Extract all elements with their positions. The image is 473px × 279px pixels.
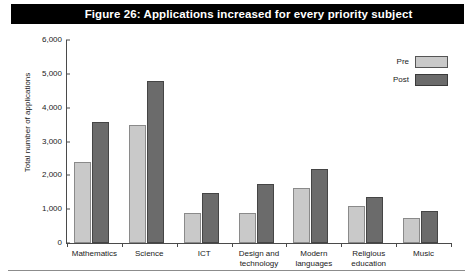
- y-axis-tick-mark: [66, 141, 70, 142]
- y-axis-tick-mark: [66, 40, 70, 41]
- figure-title-banner: Figure 26: Applications increased for ev…: [11, 4, 464, 24]
- y-axis-tick-mark: [66, 73, 70, 74]
- bar-pre: [403, 218, 420, 243]
- bar-pre: [74, 162, 91, 243]
- y-axis-tick-label: 1,000: [42, 205, 62, 213]
- x-axis-tick-mark: [122, 243, 123, 247]
- y-axis-tick-label: 3,000: [42, 138, 62, 146]
- y-axis-tick-mark: [66, 175, 70, 176]
- bar-post: [421, 211, 438, 243]
- x-axis-tick-mark: [341, 243, 342, 247]
- bar-post: [366, 197, 383, 243]
- figure-container: Figure 26: Applications increased for ev…: [0, 0, 473, 279]
- bar-post: [202, 193, 219, 243]
- x-axis-tick-mark: [451, 243, 452, 247]
- y-axis-tick-mark: [66, 209, 70, 210]
- bar-pre: [348, 206, 365, 243]
- bar-pre: [293, 188, 310, 243]
- legend-swatch-post: [415, 74, 448, 86]
- bar-post: [311, 169, 328, 243]
- x-axis-line: [66, 243, 451, 244]
- bar-pre: [239, 213, 256, 243]
- footer-divider: [8, 270, 465, 271]
- y-axis-tick-labels: 01,0002,0003,0004,0005,0006,000: [22, 28, 66, 248]
- x-axis-tick-mark: [177, 243, 178, 247]
- legend-item-pre: Pre: [374, 54, 448, 69]
- chart-legend: Pre Post: [374, 54, 448, 90]
- legend-label-post: Post: [393, 75, 409, 84]
- y-axis-tick-label: 6,000: [42, 36, 62, 44]
- legend-label-pre: Pre: [397, 57, 409, 66]
- y-axis-tick-label: 4,000: [42, 104, 62, 112]
- page-title: Figure 26: Applications increased for ev…: [85, 8, 413, 20]
- legend-item-post: Post: [374, 72, 448, 87]
- bar-post: [147, 81, 164, 243]
- y-axis-tick-label: 5,000: [42, 70, 62, 78]
- bar-post: [257, 184, 274, 243]
- bar-pre: [184, 213, 201, 243]
- plot-area: Total number of applications 01,0002,000…: [0, 28, 473, 279]
- bar-pre: [129, 125, 146, 243]
- y-axis-tick-label: 0: [58, 239, 62, 247]
- x-axis-tick-mark: [396, 243, 397, 247]
- bar-post: [92, 122, 109, 243]
- x-axis-tick-mark: [67, 243, 68, 247]
- x-axis-tick-mark: [286, 243, 287, 247]
- y-axis-tick-label: 2,000: [42, 171, 62, 179]
- x-axis-tick-mark: [232, 243, 233, 247]
- x-axis-category-label: Music: [390, 249, 457, 259]
- y-axis-tick-mark: [66, 107, 70, 108]
- legend-swatch-pre: [415, 56, 448, 68]
